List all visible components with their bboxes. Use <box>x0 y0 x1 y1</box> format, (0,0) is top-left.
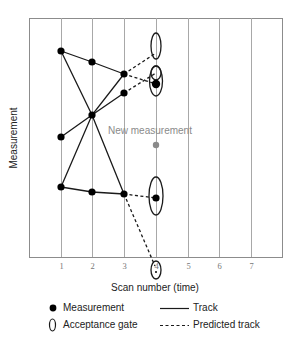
predicted-tracks <box>124 53 156 266</box>
measurement-point <box>88 58 95 65</box>
legend-graphics <box>50 305 190 331</box>
svg-text:5: 5 <box>186 261 190 271</box>
measurement-point <box>88 111 95 118</box>
measurement-point <box>88 188 95 195</box>
measurement-point <box>57 47 64 54</box>
measurement-point <box>57 133 64 140</box>
new-measurement-label: New measurement <box>108 125 192 136</box>
x-axis-title: Scan number (time) <box>0 282 297 293</box>
svg-text:7: 7 <box>249 261 253 271</box>
acceptance-gate-legend-icon <box>50 319 56 331</box>
svg-text:2: 2 <box>90 261 94 271</box>
svg-text:3: 3 <box>122 261 126 271</box>
measurement-point <box>120 70 127 77</box>
measurement-point <box>57 183 64 190</box>
svg-text:6: 6 <box>217 261 221 271</box>
measurement-legend-icon <box>50 305 57 312</box>
tracking-diagram: 1 2 3 4 5 6 7 <box>0 0 297 349</box>
measurement-point-small <box>155 271 157 273</box>
scan-gridlines <box>62 18 252 257</box>
measurement-point <box>120 190 127 197</box>
x-tick-labels: 1 2 3 4 5 6 7 <box>59 261 253 271</box>
measurement-point <box>120 89 127 96</box>
measurement-point <box>152 80 160 88</box>
new-measurement-point <box>153 142 159 148</box>
svg-text:1: 1 <box>59 261 63 271</box>
y-axis-title: Measurement <box>8 107 19 168</box>
measurement-point <box>152 194 159 201</box>
